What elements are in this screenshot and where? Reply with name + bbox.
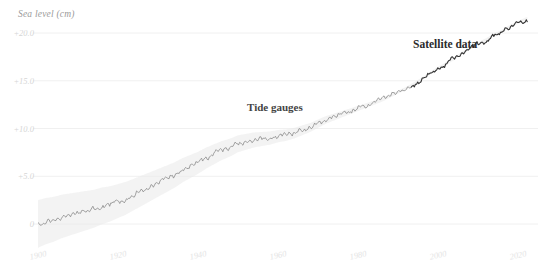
annotation-tide-gauges: Tide gauges [247,101,303,113]
satellite-data-line [411,20,527,88]
y-axis-tick-label: +10.0 [8,124,34,134]
uncertainty-band [38,17,527,248]
sea-level-chart: Sea level (cm) 0+5.0+10.0+15.0+20.0 1900… [0,0,543,276]
annotation-satellite-data: Satellite data [413,38,477,50]
y-axis-tick-label: +20.0 [8,28,34,38]
y-axis-tick-label: +15.0 [8,76,34,86]
y-axis-tick-label: 0 [8,219,34,229]
y-axis-tick-label: +5.0 [8,171,34,181]
